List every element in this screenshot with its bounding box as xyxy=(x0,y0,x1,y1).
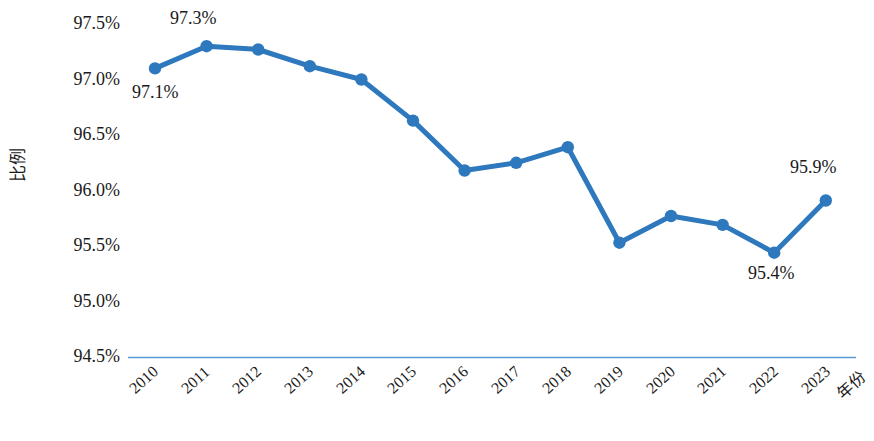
data-point-2018[interactable] xyxy=(562,141,574,153)
data-point-2017[interactable] xyxy=(510,157,522,169)
data-point-2019[interactable] xyxy=(613,237,625,249)
data-point-2010[interactable] xyxy=(149,62,161,74)
line-chart: 比例 97.5% 97.0% 96.5% 96.0% 95.5% 95.0% 9… xyxy=(0,0,874,441)
data-point-2015[interactable] xyxy=(407,114,419,126)
data-point-2012[interactable] xyxy=(252,43,264,55)
data-point-2014[interactable] xyxy=(355,73,367,85)
data-point-2021[interactable] xyxy=(716,219,728,231)
data-point-2022[interactable] xyxy=(768,247,780,259)
data-point-2016[interactable] xyxy=(458,164,470,176)
data-label-2023: 95.9% xyxy=(790,157,837,178)
data-point-2023[interactable] xyxy=(820,194,832,206)
data-point-2013[interactable] xyxy=(304,60,316,72)
plot-area xyxy=(0,0,874,441)
data-label-2022: 95.4% xyxy=(748,263,795,284)
data-label-2010: 97.1% xyxy=(132,82,179,103)
data-point-2011[interactable] xyxy=(200,40,212,52)
data-point-2020[interactable] xyxy=(665,210,677,222)
data-label-2011: 97.3% xyxy=(170,8,217,29)
